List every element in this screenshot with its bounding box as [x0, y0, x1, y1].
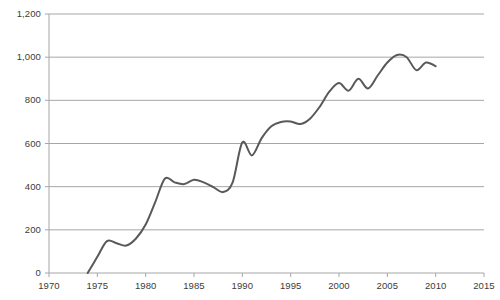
y-axis-tick-label: 0: [0, 267, 41, 278]
x-axis-tick-label: 1990: [217, 280, 267, 291]
gridline-group: [45, 14, 484, 273]
y-axis-tick-label: 400: [0, 181, 41, 192]
x-axis-tick-label: 2010: [411, 280, 461, 291]
y-axis-tick-label: 1,200: [0, 8, 41, 19]
chart-canvas: [0, 0, 500, 300]
x-axis-tick-label: 2000: [314, 280, 364, 291]
y-axis-tick-label: 1,000: [0, 51, 41, 62]
x-axis-tick-label: 1980: [121, 280, 171, 291]
line-chart: 02004006008001,0001,200 1970197519801985…: [0, 0, 500, 300]
y-axis-tick-label: 800: [0, 94, 41, 105]
y-axis-tick-label: 600: [0, 138, 41, 149]
x-axis-tick-label: 2015: [459, 280, 500, 291]
x-axis-tick-label: 1970: [24, 280, 74, 291]
x-axis-tick-label: 1995: [266, 280, 316, 291]
data-series-line: [88, 55, 436, 273]
x-axis-tick-label: 2005: [362, 280, 412, 291]
y-axis-tick-label: 200: [0, 224, 41, 235]
x-axis-tick-label: 1975: [72, 280, 122, 291]
x-axis-tick-label: 1985: [169, 280, 219, 291]
x-tick-group: [49, 273, 484, 277]
